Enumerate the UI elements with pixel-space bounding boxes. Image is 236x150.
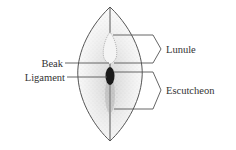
- label-escutcheon: Escutcheon: [166, 85, 215, 96]
- shell-diagram: Beak Ligament Lunule Escutcheon: [0, 0, 236, 150]
- label-lunule: Lunule: [166, 44, 196, 55]
- label-beak: Beak: [41, 58, 63, 69]
- label-ligament: Ligament: [25, 72, 65, 83]
- ligament-mark: [106, 67, 115, 85]
